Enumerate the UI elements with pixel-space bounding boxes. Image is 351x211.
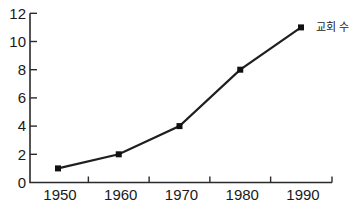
data-point [298, 24, 304, 30]
y-tick-label: 6 [18, 89, 26, 106]
series-label: 교회 수 [316, 21, 350, 34]
y-tick-label: 0 [18, 174, 26, 191]
y-tick-label: 4 [18, 117, 26, 134]
x-tick-label: 1980 [226, 186, 259, 203]
chart-container: 02468101219501960197019801990교회 수 [0, 0, 351, 211]
x-tick-label: 1990 [286, 186, 319, 203]
data-line [58, 27, 301, 168]
y-tick-label: 2 [18, 146, 26, 163]
data-point [177, 123, 183, 129]
y-tick-label: 8 [18, 61, 26, 78]
x-tick-label: 1950 [43, 186, 76, 203]
data-point [116, 151, 122, 157]
y-tick-label: 10 [9, 33, 26, 50]
data-point [55, 165, 61, 171]
data-point [237, 67, 243, 73]
x-tick-label: 1960 [104, 186, 137, 203]
y-tick-label: 12 [9, 5, 26, 22]
line-chart: 02468101219501960197019801990교회 수 [0, 0, 351, 211]
x-tick-label: 1970 [165, 186, 198, 203]
